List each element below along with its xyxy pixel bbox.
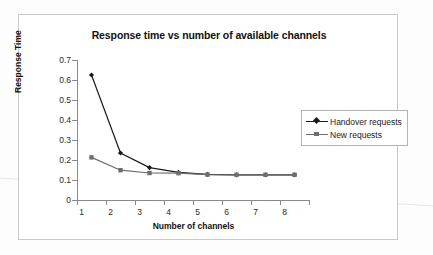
data-point-marker: [205, 172, 209, 176]
data-point-marker: [89, 155, 93, 159]
data-point-marker: [89, 72, 94, 77]
legend-label: Handover requests: [328, 117, 402, 127]
legend-item-handover-requests: Handover requests: [306, 115, 402, 128]
series-line-handover-requests: [92, 75, 295, 175]
legend-marker-diamond-icon: [306, 116, 328, 127]
chart-frame: Response time vs number of available cha…: [18, 14, 398, 240]
legend-item-new-requests: New requests: [306, 128, 402, 141]
legend-marker-square-icon: [306, 129, 328, 140]
data-point-marker: [176, 171, 180, 175]
data-point-marker: [147, 165, 152, 170]
chart-legend: Handover requests New requests: [301, 110, 408, 146]
data-point-marker: [118, 150, 123, 155]
data-point-marker: [147, 171, 151, 175]
data-point-marker: [234, 173, 238, 177]
data-point-marker: [118, 168, 122, 172]
data-point-marker: [263, 173, 267, 177]
legend-label: New requests: [328, 130, 382, 140]
data-point-marker: [292, 173, 296, 177]
